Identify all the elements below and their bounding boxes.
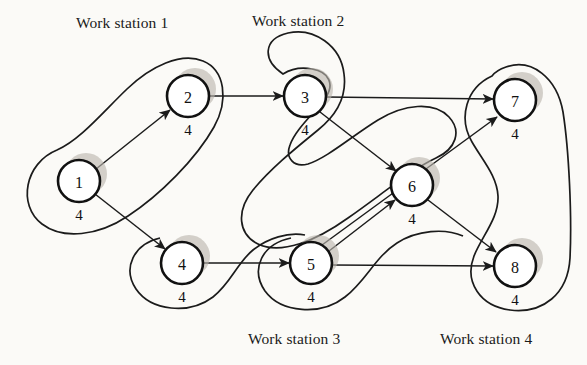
node-4-label: 4 [178,256,186,273]
node-8-time: 4 [511,292,519,308]
node-5-label: 5 [307,256,315,273]
workstation-2-label: Work station 2 [252,12,344,30]
task-node-2[interactable]: 2 4 [167,68,216,138]
node-1-label: 1 [75,174,83,191]
workstation-3-enclosure [130,234,305,308]
workstation-2-enclosure [242,32,456,248]
task-node-1[interactable]: 1 4 [58,153,107,223]
node-6-time: 4 [408,211,416,227]
node-5-time: 4 [307,289,315,305]
task-node-7[interactable]: 7 4 [494,72,543,142]
task-node-5[interactable]: 5 4 [290,235,339,305]
task-node-6[interactable]: 6 4 [391,157,440,227]
node-3-label: 3 [301,89,309,106]
edge-6-to-8 [428,200,496,252]
workstation-4-label: Work station 4 [440,330,532,348]
task-node-4[interactable]: 4 4 [161,235,210,305]
edge-5-to-8 [332,265,493,266]
edge-1-to-4 [95,194,165,249]
node-1-time: 4 [75,207,83,223]
node-3-time: 4 [301,122,309,138]
workstation-3-enclosure-lobe2 [259,231,463,309]
node-7-label: 7 [511,93,519,110]
workstation-3-label: Work station 3 [248,330,340,348]
node-2-time: 4 [184,122,192,138]
node-6-label: 6 [408,178,416,195]
task-node-3[interactable]: 3 4 [284,68,333,138]
edge-3-to-7 [326,97,493,99]
edge-3-to-6 [320,112,396,171]
precedence-diagram: 1 4 2 4 3 4 4 4 [0,0,587,365]
workstation-1-label: Work station 1 [76,14,168,32]
node-7-time: 4 [511,126,519,142]
node-8-label: 8 [511,259,519,276]
node-4-time: 4 [178,289,186,305]
diagram-canvas: 1 4 2 4 3 4 4 4 [0,0,587,365]
edge-1-to-2 [96,110,170,169]
task-node-8[interactable]: 8 4 [494,238,543,308]
node-2-label: 2 [184,89,192,106]
